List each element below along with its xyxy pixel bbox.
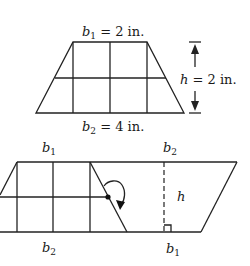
- bottom-left-b2-label: b2: [42, 240, 56, 257]
- height-label: h = 2 in.: [180, 72, 237, 87]
- parallelogram-right-edge: [201, 162, 237, 232]
- bottom-base-label: b2 = 4 in.: [82, 119, 144, 136]
- bottom-parallelogram: [0, 162, 237, 232]
- top-left-b1-label: b1: [42, 140, 56, 157]
- top-trapezoid: [36, 42, 184, 113]
- rotation-pivot-dot: [105, 194, 110, 199]
- top-base-label: b1 = 2 in.: [82, 24, 144, 41]
- trapezoid-area-diagram: b1 = 2 in. b2 = 4 in. h = 2 in. b1 b2 b2…: [0, 0, 250, 266]
- arrowhead-up-icon: [191, 44, 199, 54]
- parallelogram-left-edge: [0, 162, 17, 195]
- parallelogram-height-label: h: [177, 189, 185, 204]
- arrowhead-down-icon: [191, 101, 199, 111]
- bottom-right-b1-label: b1: [166, 241, 180, 258]
- right-angle-marker-icon: [164, 225, 171, 232]
- top-right-b2-label: b2: [163, 140, 177, 157]
